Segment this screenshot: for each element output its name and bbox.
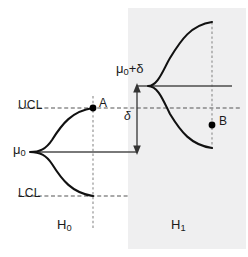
h1-label-subscript: 1 [180,223,185,233]
figure-canvas [0,0,248,257]
mu0-plus-delta-label: μ0+δ [116,62,144,78]
mu0-label-subscript: 0 [21,148,26,158]
point-b-marker [209,122,216,129]
mu0-label-symbol: μ [13,142,21,157]
spc-hypothesis-shift-figure: UCL LCL μ0 μ0+δ δ A B H0 H1 [0,0,248,257]
h1-label-symbol: H [171,217,180,232]
lcl-label: LCL [18,187,41,199]
mu0-label: μ0 [13,143,26,159]
mu0-plus-delta-symbol: μ [116,61,124,76]
point-b-label: B [219,115,227,127]
h0-region-label: H0 [57,218,72,234]
h1-region-label: H1 [171,218,186,234]
delta-label: δ [124,110,131,122]
ucl-label: UCL [18,99,43,111]
point-a-marker [90,105,97,112]
point-a-label: A [99,97,107,109]
h0-label-subscript: 0 [66,223,71,233]
h0-label-symbol: H [57,217,66,232]
mu0-plus-delta-rest: +δ [129,61,144,76]
h1-shaded-region [128,8,246,249]
